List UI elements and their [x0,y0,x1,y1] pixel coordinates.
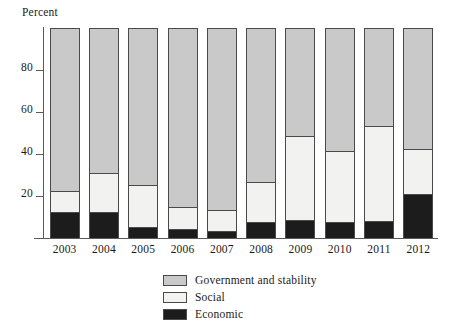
legend-swatch-icon [163,292,187,303]
bar-segment-government[interactable] [168,28,198,208]
legend-item-label: Economic [195,308,243,320]
bar-segment-social[interactable] [128,186,158,228]
y-tick-mark [36,196,43,197]
bar-segment-economic[interactable] [168,230,198,238]
legend-item[interactable]: Economic [163,306,317,322]
stacked-bar-chart: Percent 20406080 20032004200520062007200… [0,0,456,332]
bar-segment-social[interactable] [89,174,119,213]
bar-segment-government[interactable] [285,28,315,137]
legend-swatch-icon [163,275,187,286]
bar-segment-social[interactable] [168,208,198,230]
y-tick-label: 40 [21,146,33,158]
plot-area [44,28,437,238]
x-tick-label-2005: 2005 [121,243,165,255]
bar-segment-government[interactable] [50,28,80,192]
bar-segment-social[interactable] [246,183,276,223]
x-axis-line [34,238,438,239]
x-tick-label-2011: 2011 [357,243,401,255]
bar-segment-government[interactable] [89,28,119,174]
bar-segment-social[interactable] [325,152,355,223]
bar-2010[interactable] [325,28,355,238]
bar-segment-social[interactable] [285,137,315,221]
legend-swatch-icon [163,309,187,320]
x-tick-label-2009: 2009 [278,243,322,255]
x-tick-label-2004: 2004 [82,243,126,255]
y-tick-label: 80 [21,62,33,74]
x-tick-label-2012: 2012 [396,243,440,255]
bar-segment-government[interactable] [364,28,394,127]
bar-segment-government[interactable] [207,28,237,211]
x-tick-label-2008: 2008 [239,243,283,255]
bar-segment-economic[interactable] [285,221,315,238]
bar-segment-economic[interactable] [50,213,80,238]
bar-segment-economic[interactable] [364,222,394,238]
y-tick: 20 [0,196,43,197]
chart-legend: Government and stabilitySocialEconomic [163,272,317,323]
legend-item-label: Government and stability [195,274,317,286]
y-tick: 60 [0,112,43,113]
bar-2003[interactable] [50,28,80,238]
y-tick-label: 60 [21,104,33,116]
bar-2012[interactable] [403,28,433,238]
y-tick-mark [36,70,43,71]
bar-segment-government[interactable] [246,28,276,183]
bar-segment-economic[interactable] [207,232,237,238]
bar-segment-economic[interactable] [128,228,158,239]
legend-item-label: Social [195,291,225,303]
x-tick-label-2006: 2006 [161,243,205,255]
bar-segment-economic[interactable] [246,223,276,238]
bar-2005[interactable] [128,28,158,238]
bar-2004[interactable] [89,28,119,238]
y-tick-mark [36,112,43,113]
bar-2007[interactable] [207,28,237,238]
legend-item[interactable]: Government and stability [163,272,317,288]
bar-2009[interactable] [285,28,315,238]
y-tick: 80 [0,70,43,71]
x-tick-label-2007: 2007 [200,243,244,255]
y-tick-label: 20 [21,188,33,200]
bar-segment-economic[interactable] [325,223,355,238]
bar-segment-social[interactable] [364,127,394,223]
bar-segment-social[interactable] [403,150,433,195]
bar-segment-government[interactable] [128,28,158,186]
x-tick-label-2003: 2003 [43,243,87,255]
bar-segment-economic[interactable] [89,213,119,238]
legend-item[interactable]: Social [163,289,317,305]
y-axis-title: Percent [22,6,58,18]
y-tick: 40 [0,154,43,155]
bar-segment-social[interactable] [50,192,80,213]
bar-2011[interactable] [364,28,394,238]
bar-segment-government[interactable] [325,28,355,152]
bar-2006[interactable] [168,28,198,238]
x-tick-label-2010: 2010 [318,243,362,255]
bar-2008[interactable] [246,28,276,238]
bar-segment-economic[interactable] [403,195,433,238]
bar-segment-government[interactable] [403,28,433,150]
bar-segment-social[interactable] [207,211,237,232]
y-tick-mark [36,154,43,155]
